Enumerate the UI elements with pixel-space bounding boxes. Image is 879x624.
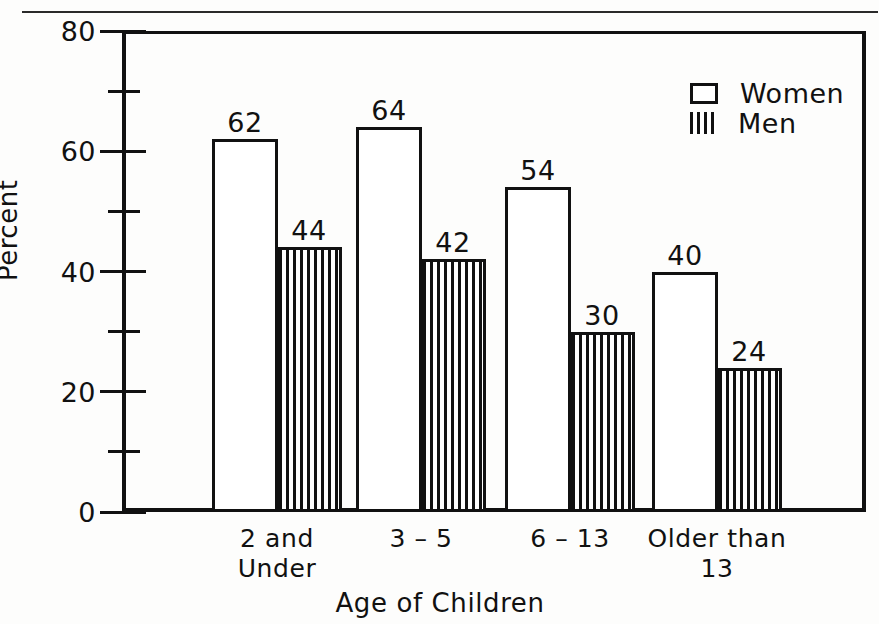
legend-entry-men: Men: [690, 108, 844, 138]
y-tick-minor-70: [108, 90, 140, 93]
bar-women-group-4: 40: [652, 272, 718, 513]
y-tick-major-40: [100, 270, 146, 273]
legend-label-men: Men: [738, 110, 797, 137]
bar-value-label: 30: [584, 302, 619, 329]
bar-value-label: 24: [731, 338, 766, 365]
x-category-label-2: 3 – 5: [389, 524, 452, 554]
x-category-label-4: Older than 13: [648, 524, 787, 583]
y-tick-minor-30: [108, 330, 140, 333]
bar-men-group-3: 30: [569, 332, 635, 512]
legend-label-women: Women: [740, 80, 844, 107]
bar-men-group-1: 44: [276, 247, 342, 512]
y-axis-title: Percent: [0, 180, 23, 281]
legend-entry-women: Women: [690, 78, 844, 108]
chart-legend: Women Men: [690, 78, 844, 138]
bar-value-label: 40: [667, 242, 702, 269]
y-tick-label-40: 40: [61, 258, 96, 285]
bar-women-group-2: 64: [356, 127, 422, 512]
y-tick-label-80: 80: [61, 18, 96, 45]
bar-value-label: 44: [291, 217, 326, 244]
striped-box-swatch-icon: [690, 112, 716, 134]
y-tick-label-0: 0: [78, 499, 96, 526]
x-axis-title: Age of Children: [335, 588, 544, 618]
bar-men-group-2: 42: [420, 259, 486, 512]
y-tick-major-0: [100, 511, 146, 514]
y-tick-label-20: 20: [61, 378, 96, 405]
bar-women-group-1: 62: [212, 139, 278, 512]
y-tick-minor-10: [108, 450, 140, 453]
bar-value-label: 42: [435, 229, 470, 256]
y-tick-major-80: [100, 30, 146, 33]
bar-value-label: 64: [371, 97, 406, 124]
bar-women-group-3: 54: [505, 187, 571, 512]
y-tick-major-20: [100, 390, 146, 393]
bar-men-group-4: 24: [716, 368, 782, 512]
y-tick-label-60: 60: [61, 138, 96, 165]
y-tick-minor-50: [108, 210, 140, 213]
bar-value-label: 54: [520, 157, 555, 184]
x-category-label-1: 2 and Under: [238, 524, 317, 583]
y-tick-major-60: [100, 150, 146, 153]
page-top-rule: [22, 11, 878, 13]
bar-value-label: 62: [227, 109, 262, 136]
x-category-label-3: 6 – 13: [530, 524, 610, 554]
open-box-swatch-icon: [690, 83, 718, 104]
